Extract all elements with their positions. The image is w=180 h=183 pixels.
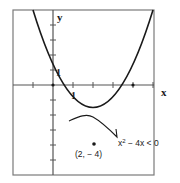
y-tick-label-1: 1 <box>56 67 61 78</box>
parabola-chart: y x 1 1 (2, − 4) x2 − 4x < 0 <box>0 0 180 183</box>
x-tick-label-1: 1 <box>71 90 76 101</box>
vertex-label: (2, − 4) <box>75 149 102 159</box>
origin-point <box>51 83 54 86</box>
y-axis-label: y <box>57 11 63 23</box>
inequality-label: x2 − 4x < 0 <box>118 138 159 148</box>
vertex-point <box>92 142 96 146</box>
x-axis-label: x <box>161 86 167 98</box>
annotation-pointer <box>69 115 117 137</box>
root-point <box>131 83 134 86</box>
